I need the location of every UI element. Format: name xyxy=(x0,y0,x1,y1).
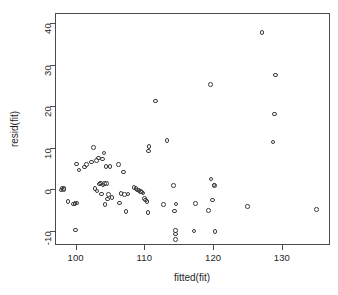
data-point xyxy=(146,149,151,154)
data-point xyxy=(74,162,79,167)
data-point xyxy=(173,232,178,237)
data-point xyxy=(147,144,152,149)
y-axis-tick-label: 20 xyxy=(42,106,53,117)
data-point xyxy=(245,204,250,209)
data-point xyxy=(116,162,121,167)
x-axis-tick-label: 120 xyxy=(205,252,221,263)
x-axis-tick xyxy=(76,245,77,250)
x-axis-label: fitted(fit) xyxy=(174,272,210,283)
data-point xyxy=(75,201,80,206)
data-point xyxy=(272,112,277,117)
data-point xyxy=(103,202,108,207)
data-point xyxy=(121,170,126,175)
y-axis-tick-label: 0 xyxy=(42,189,53,194)
data-point xyxy=(213,229,218,234)
data-point xyxy=(99,192,104,197)
data-point xyxy=(210,198,215,203)
data-point xyxy=(108,164,113,169)
data-point xyxy=(260,30,265,35)
data-point xyxy=(173,237,178,242)
y-axis-tick-label: 30 xyxy=(42,65,53,76)
x-axis-tick-label: 130 xyxy=(274,252,290,263)
y-axis-tick-label: 40 xyxy=(42,23,53,34)
data-point xyxy=(171,183,176,188)
data-point xyxy=(102,151,107,156)
data-point xyxy=(110,195,115,200)
data-point xyxy=(124,209,129,214)
data-point xyxy=(105,197,110,202)
x-axis-tick-label: 110 xyxy=(137,252,153,263)
data-point xyxy=(193,201,198,206)
data-point xyxy=(91,145,96,150)
data-point xyxy=(192,229,197,234)
data-point xyxy=(212,183,217,188)
data-point xyxy=(206,208,211,213)
data-point xyxy=(100,157,105,162)
x-axis-tick xyxy=(144,245,145,250)
data-point xyxy=(174,202,179,207)
y-axis-tick-label: -10 xyxy=(42,231,53,245)
data-point xyxy=(66,199,71,204)
residual-plot-figure: 100110120130-10010203040 fitted(fit) res… xyxy=(0,0,338,295)
data-point xyxy=(145,199,150,204)
data-point xyxy=(77,168,82,173)
y-axis-label: resid(fit) xyxy=(9,111,20,147)
data-point xyxy=(146,210,151,215)
data-point xyxy=(271,140,276,145)
x-axis-tick-label: 100 xyxy=(67,252,83,263)
data-point xyxy=(314,207,319,212)
data-point xyxy=(165,138,170,143)
data-point xyxy=(161,202,166,207)
plot-data-area xyxy=(55,13,330,245)
data-point xyxy=(84,162,89,167)
data-point xyxy=(104,181,109,186)
data-point xyxy=(273,73,278,78)
data-point xyxy=(208,82,213,87)
data-point xyxy=(62,186,67,191)
data-point xyxy=(209,177,214,182)
x-axis-tick xyxy=(213,245,214,250)
data-point xyxy=(117,201,122,206)
x-axis-tick xyxy=(282,245,283,250)
y-axis-tick-label: 10 xyxy=(42,148,53,159)
data-point xyxy=(153,99,158,104)
data-point xyxy=(141,191,146,196)
data-point xyxy=(126,192,131,197)
data-point xyxy=(73,228,78,233)
data-point xyxy=(172,209,177,214)
